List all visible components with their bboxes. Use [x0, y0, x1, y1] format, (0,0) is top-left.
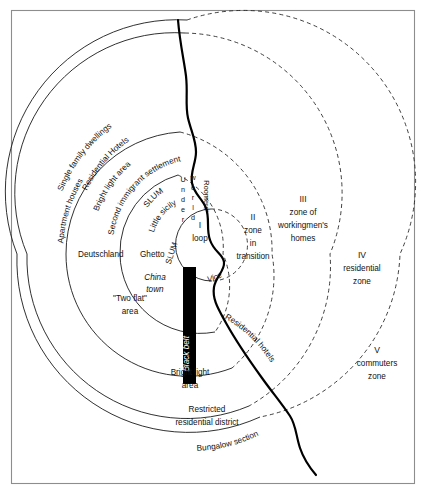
label-bright-light-area-1: Bright light [171, 368, 210, 377]
zone-2-line3: transition [236, 252, 270, 261]
underworld-u: U [180, 175, 185, 184]
zone-1-numeral: I [199, 220, 201, 230]
label-underworld: U n d e r w o r l d [180, 173, 196, 224]
label-deutschland: Deutschland [78, 250, 124, 259]
label-residential-hotels-lower: Residential hotels [224, 312, 277, 364]
label-restricted-residential-2: residential district [175, 418, 239, 427]
zone-3-line2: workingmen's [277, 221, 328, 230]
zone-boundary-4-solid [15, 33, 249, 419]
label-roomers: Roomers' [202, 180, 211, 212]
label-town: town [146, 285, 164, 294]
underworld-d2: d [191, 213, 195, 222]
zone-3-line1: zone of [290, 208, 318, 217]
zone-4-numeral: IV [358, 250, 366, 260]
zone-label-5: V commuters zone [357, 345, 398, 381]
zone-5-line2: zone [368, 372, 386, 381]
zone-4-line2: zone [353, 277, 371, 286]
label-ghetto: Ghetto [140, 250, 165, 259]
label-slum-upper: SLUM [142, 186, 165, 209]
underworld-r: r [182, 215, 185, 224]
zone-1-line1: loop [192, 234, 208, 243]
underworld-o: o [191, 183, 195, 192]
zone-2-numeral: II [251, 212, 256, 222]
label-bright-light-area-2: area [182, 381, 199, 390]
zone-3-line3: homes [291, 234, 316, 243]
zone-label-4: IV residential zone [343, 250, 381, 286]
label-china: China [144, 273, 166, 282]
underworld-r2: r [192, 193, 195, 202]
zone-boundary-5-solid [5, 20, 260, 433]
concentric-zone-diagram: I loop II zone in transition III zone of… [0, 0, 427, 495]
label-two-flat-area-1: "Two flat" [113, 294, 147, 303]
zone-2-line1: zone [244, 226, 262, 235]
zone-3-numeral: III [299, 194, 306, 204]
underworld-e: e [181, 205, 185, 214]
label-black-belt: Black belt [182, 335, 191, 371]
underworld-w: w [189, 173, 196, 182]
label-two-flat-area-2: area [122, 307, 139, 316]
zone-5-line1: commuters [357, 359, 398, 368]
zone-2-line2: in [250, 239, 257, 248]
figure-canvas: I loop II zone in transition III zone of… [0, 0, 427, 495]
zone-4-line1: residential [343, 264, 381, 273]
zone-label-2: II zone in transition [236, 212, 270, 261]
zone-label-1: I loop [192, 220, 208, 243]
underworld-d: d [181, 195, 185, 204]
zone-5-numeral: V [374, 345, 380, 355]
underworld-l: l [192, 203, 194, 212]
zone-label-3: III zone of workingmen's homes [277, 194, 328, 243]
underworld-n: n [181, 185, 185, 194]
label-restricted-residential-1: Restricted [189, 405, 226, 414]
label-slum-vertical: SLUM [164, 241, 180, 266]
zone-boundary-1-dashed [211, 209, 247, 281]
label-bungalow-section: Bungalow section [197, 429, 261, 453]
